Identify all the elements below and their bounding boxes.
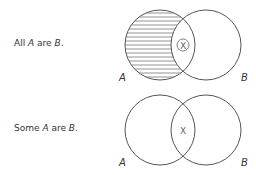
venn-some-a-are-b: X A B [118, 95, 248, 168]
x-marker: X [180, 126, 186, 136]
x-marker: X [180, 41, 186, 51]
label-a: A [118, 72, 126, 83]
label-b: B [241, 157, 248, 168]
venn-all-a-are-b: X A B [118, 10, 248, 83]
label-b: B [241, 72, 248, 83]
venn-diagrams: X A B X A B [0, 0, 256, 175]
label-a: A [118, 157, 126, 168]
